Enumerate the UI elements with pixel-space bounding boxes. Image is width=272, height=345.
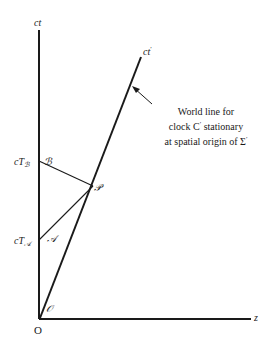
event-p-label: 𝒫 (94, 183, 101, 193)
annotation-line-2: clock C′ stationary (150, 118, 262, 133)
ct-a-tick-label: cT𝒜 (14, 236, 31, 248)
ct-prime-axis-label: ct′ (143, 46, 152, 57)
ct-prime-mark: ′ (150, 45, 152, 53)
origin-label: O (34, 325, 42, 336)
event-b-label: ℬ (44, 157, 52, 167)
world-line-annotation: World line for clock C′ stationary at sp… (150, 106, 262, 148)
spacetime-diagram-canvas (0, 0, 272, 345)
ct-b-tick-label: cTℬ (14, 157, 30, 169)
annotation-line-3: at spatial origin of Σ′ (150, 133, 262, 148)
ct-a-subscript: 𝒜 (24, 240, 31, 248)
event-a-label: 𝒜 (47, 234, 56, 244)
event-origin-label: 𝒪 (46, 304, 52, 314)
ct-b-prefix: cT (14, 156, 24, 167)
ct-b-subscript: ℬ (24, 161, 30, 169)
z-axis-label: z (254, 313, 258, 323)
annotation-line-1: World line for (150, 106, 262, 118)
ct-axis-label: ct (34, 18, 41, 28)
ct-a-prefix: cT (14, 235, 24, 246)
light-ray-a-to-p (39, 186, 93, 240)
ct-prime-world-line (40, 57, 141, 318)
